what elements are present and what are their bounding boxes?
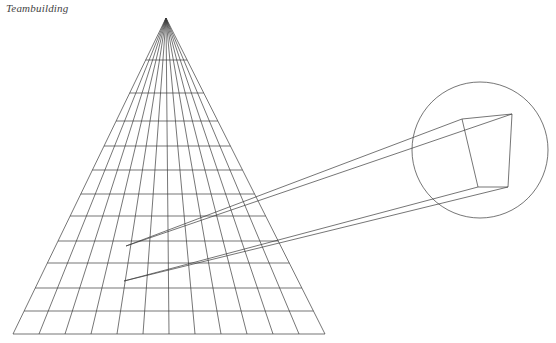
projection-circle (412, 82, 548, 218)
projection-ray-3 (124, 187, 508, 281)
radial-line-2 (65, 18, 166, 334)
radial-line-10 (166, 18, 273, 334)
radial-line-0 (13, 18, 166, 334)
projection-ray-0 (126, 119, 462, 246)
triangle-horizontal-lines (13, 60, 325, 334)
triangle-radial-lines (13, 18, 325, 334)
radial-line-12 (166, 18, 325, 334)
radial-line-11 (166, 18, 299, 334)
perspective-diagram-svg (0, 0, 556, 343)
projection-ray-2 (124, 187, 478, 281)
projection-ray-1 (126, 114, 512, 246)
radial-line-6 (166, 18, 169, 334)
radial-line-9 (166, 18, 247, 334)
cube-quad (462, 114, 512, 187)
cube-front-face (462, 114, 512, 187)
projection-circle-outline (412, 82, 548, 218)
radial-line-8 (166, 18, 221, 334)
radial-line-4 (117, 18, 166, 334)
radial-line-7 (166, 18, 195, 334)
figure-canvas: Teambuilding (0, 0, 556, 343)
